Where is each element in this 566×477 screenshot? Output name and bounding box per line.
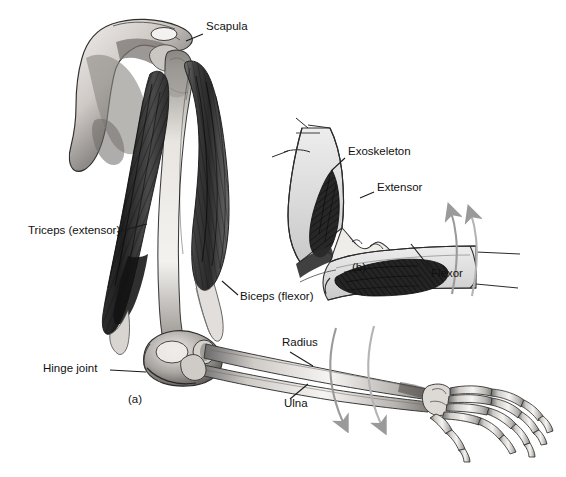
leader-extensor bbox=[360, 192, 374, 198]
leader-hinge-joint bbox=[110, 370, 146, 372]
forearm-rotation-arrow-right bbox=[368, 326, 382, 426]
hand-bones bbox=[422, 384, 553, 462]
label-hinge-joint: Hinge joint bbox=[43, 363, 97, 375]
anatomy-figure: Scapula Triceps (extensor) Biceps (flexo… bbox=[0, 0, 566, 477]
panel-caption-b: (b) bbox=[352, 262, 366, 274]
label-scapula: Scapula bbox=[206, 21, 248, 33]
label-exoskeleton: Exoskeleton bbox=[348, 146, 411, 158]
label-triceps: Triceps (extensor) bbox=[28, 225, 120, 237]
label-biceps: Biceps (flexor) bbox=[240, 291, 314, 303]
label-extensor: Extensor bbox=[377, 182, 422, 194]
label-flexor: Flexor bbox=[431, 268, 463, 280]
label-ulna: Ulna bbox=[284, 398, 308, 410]
leader-biceps bbox=[222, 281, 238, 295]
label-radius: Radius bbox=[282, 337, 318, 349]
panel-caption-a: (a) bbox=[128, 394, 142, 406]
illustration-canvas bbox=[0, 0, 566, 477]
